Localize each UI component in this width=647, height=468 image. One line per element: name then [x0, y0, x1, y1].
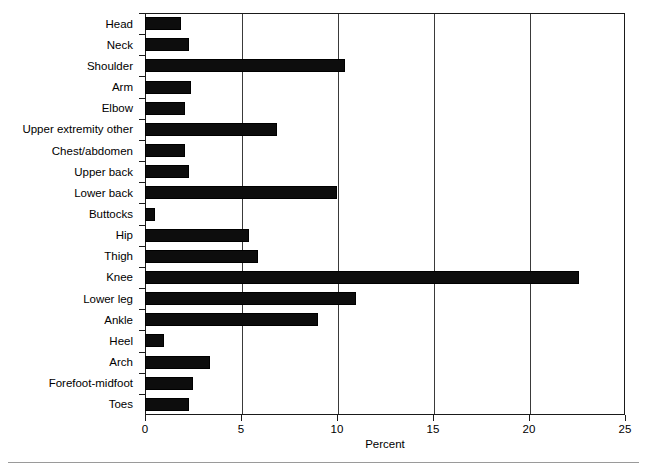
bar [145, 17, 181, 30]
bar [145, 123, 277, 136]
category-label: Elbow [0, 102, 139, 114]
category-label: Forefoot-midfoot [0, 377, 139, 389]
category-label: Upper back [0, 166, 139, 178]
bar-row [145, 186, 625, 199]
category-label: Lower leg [0, 293, 139, 305]
y-tick-mark [139, 352, 145, 353]
y-tick-mark [139, 225, 145, 226]
bar-row [145, 38, 625, 51]
x-tick-mark [625, 415, 626, 421]
bar [145, 377, 193, 390]
x-tick-mark [145, 415, 146, 421]
bar [145, 38, 189, 51]
x-tick-label: 25 [605, 423, 645, 436]
category-label: Arch [0, 356, 139, 368]
bar-row [145, 59, 625, 72]
y-tick-mark [139, 373, 145, 374]
y-tick-mark [139, 98, 145, 99]
category-label: Head [0, 18, 139, 30]
bar [145, 334, 164, 347]
x-tick-mark [337, 415, 338, 421]
bar [145, 292, 356, 305]
bar-row [145, 292, 625, 305]
bar-row [145, 229, 625, 242]
bar [145, 144, 185, 157]
category-label: Thigh [0, 250, 139, 262]
x-tick-label: 5 [221, 423, 261, 436]
x-tick-mark [433, 415, 434, 421]
x-tick-label: 20 [509, 423, 549, 436]
category-label: Heel [0, 335, 139, 347]
y-tick-mark [139, 76, 145, 77]
category-label: Neck [0, 39, 139, 51]
bar [145, 59, 345, 72]
x-tick-label: 10 [317, 423, 357, 436]
bar-row [145, 313, 625, 326]
bar-row [145, 377, 625, 390]
x-axis-title: Percent [145, 438, 625, 450]
bar [145, 271, 579, 284]
category-label: Lower back [0, 187, 139, 199]
bar [145, 102, 185, 115]
bar-row [145, 271, 625, 284]
y-tick-mark [139, 161, 145, 162]
y-tick-mark [139, 394, 145, 395]
bar [145, 208, 155, 221]
bar-row [145, 208, 625, 221]
y-tick-mark [139, 55, 145, 56]
y-tick-mark [139, 34, 145, 35]
bar [145, 165, 189, 178]
bar-row [145, 17, 625, 30]
x-tick-label: 0 [125, 423, 165, 436]
category-label: Toes [0, 398, 139, 410]
bar [145, 186, 337, 199]
y-tick-mark [139, 13, 145, 14]
bar [145, 81, 191, 94]
y-tick-mark [139, 267, 145, 268]
y-tick-mark [139, 309, 145, 310]
bar-row [145, 81, 625, 94]
category-label: Arm [0, 81, 139, 93]
category-label: Buttocks [0, 208, 139, 220]
bar-row [145, 250, 625, 263]
category-label: Chest/abdomen [0, 145, 139, 157]
bar-row [145, 123, 625, 136]
y-tick-mark [139, 203, 145, 204]
y-tick-mark [139, 140, 145, 141]
category-label: Ankle [0, 314, 139, 326]
x-tick-label: 15 [413, 423, 453, 436]
y-tick-mark [139, 330, 145, 331]
bars-container [145, 13, 625, 415]
bar [145, 250, 258, 263]
category-axis-labels: HeadNeckShoulderArmElbowUpper extremity … [0, 13, 139, 415]
x-tick-mark [241, 415, 242, 421]
bar-row [145, 334, 625, 347]
y-tick-mark [139, 288, 145, 289]
bottom-divider-rule [8, 462, 639, 463]
category-label: Upper extremity other [0, 123, 139, 135]
bar-chart-figure: HeadNeckShoulderArmElbowUpper extremity … [0, 0, 647, 468]
category-label: Shoulder [0, 60, 139, 72]
bar-row [145, 398, 625, 411]
category-label: Hip [0, 229, 139, 241]
y-tick-mark [139, 246, 145, 247]
bar-row [145, 102, 625, 115]
bar-row [145, 165, 625, 178]
category-label: Knee [0, 271, 139, 283]
y-tick-mark [139, 119, 145, 120]
x-tick-mark [529, 415, 530, 421]
bar-row [145, 356, 625, 369]
bar-row [145, 144, 625, 157]
bar [145, 313, 318, 326]
bar [145, 398, 189, 411]
y-tick-mark [139, 182, 145, 183]
bar [145, 229, 249, 242]
bar [145, 356, 210, 369]
